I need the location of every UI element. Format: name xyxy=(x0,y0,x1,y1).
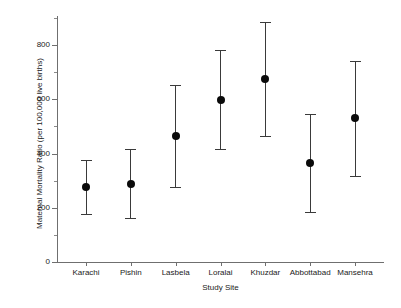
x-axis-tick xyxy=(355,262,356,266)
error-bar-cap-upper xyxy=(305,114,316,115)
y-axis-minor-tick xyxy=(54,72,57,73)
y-axis-tick xyxy=(52,208,57,209)
x-axis-title: Study Site xyxy=(57,283,384,292)
x-axis-tick xyxy=(86,262,87,266)
data-point-marker xyxy=(351,114,359,122)
x-axis-tick-label: Mansehra xyxy=(337,268,373,277)
data-point-marker xyxy=(82,183,90,191)
y-axis-minor-tick xyxy=(54,126,57,127)
x-axis-tick xyxy=(176,262,177,266)
y-axis-tick xyxy=(52,45,57,46)
error-bar-cap-lower xyxy=(260,136,271,137)
data-point-marker xyxy=(217,96,225,104)
x-axis-tick-label: Abbottabad xyxy=(290,268,331,277)
error-bar-cap-upper xyxy=(215,50,226,51)
error-bar-cap-lower xyxy=(215,149,226,150)
error-bar-cap-lower xyxy=(170,187,181,188)
plot-area: 0200400600800 KarachiPishinLasbelaLorala… xyxy=(0,0,401,308)
x-axis-tick xyxy=(265,262,266,266)
x-axis-tick xyxy=(221,262,222,266)
data-point-marker xyxy=(127,180,135,188)
y-axis-minor-tick xyxy=(54,181,57,182)
y-axis-tick xyxy=(52,154,57,155)
data-point-marker xyxy=(172,132,180,140)
error-bar-cap-upper xyxy=(81,160,92,161)
x-axis-tick-label: Loralai xyxy=(208,268,232,277)
error-bar-cap-lower xyxy=(350,176,361,177)
error-bar-cap-upper xyxy=(170,85,181,86)
y-axis-tick xyxy=(52,262,57,263)
y-axis-minor-tick xyxy=(54,235,57,236)
error-bar-cap-upper xyxy=(125,149,136,150)
x-axis-tick-label: Lasbela xyxy=(162,268,190,277)
y-axis-title: Maternal Mortality Ratio (per 100,000 li… xyxy=(35,28,44,260)
error-bar-cap-lower xyxy=(125,218,136,219)
y-axis-tick xyxy=(52,99,57,100)
data-point-marker xyxy=(261,75,269,83)
x-axis-tick xyxy=(310,262,311,266)
error-bar-cap-lower xyxy=(305,212,316,213)
error-bar-cap-upper xyxy=(260,22,271,23)
x-axis-tick-label: Karachi xyxy=(72,268,99,277)
chart-figure: 0200400600800 KarachiPishinLasbelaLorala… xyxy=(0,0,401,308)
error-bar-cap-upper xyxy=(350,61,361,62)
y-axis-minor-tick xyxy=(54,18,57,19)
x-axis-tick-label: Pishin xyxy=(120,268,142,277)
y-axis-line xyxy=(57,16,58,263)
data-point-marker xyxy=(306,159,314,167)
error-bar-cap-lower xyxy=(81,214,92,215)
x-axis-tick xyxy=(131,262,132,266)
x-axis-tick-label: Khuzdar xyxy=(250,268,280,277)
